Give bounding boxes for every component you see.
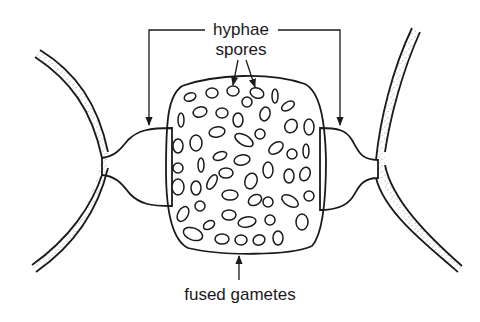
spores-arrow-right — [246, 60, 255, 87]
spores-label: spores — [215, 40, 266, 59]
spores-arrow-left — [233, 60, 238, 85]
left-hypha — [32, 50, 108, 272]
hyphae-label-group: hyphae — [149, 20, 340, 125]
right-suspensor — [320, 128, 378, 210]
right-hypha — [376, 28, 462, 272]
left-suspensor — [102, 128, 172, 206]
spores-label-group: spores — [215, 40, 266, 87]
hyphae-label: hyphae — [213, 20, 269, 39]
spores-cluster — [172, 86, 314, 247]
fused-gametes-label-group: fused gametes — [184, 256, 296, 304]
fused-gametes-label: fused gametes — [184, 285, 296, 304]
zygospore-diagram: hyphae spores fused gametes — [0, 0, 480, 322]
